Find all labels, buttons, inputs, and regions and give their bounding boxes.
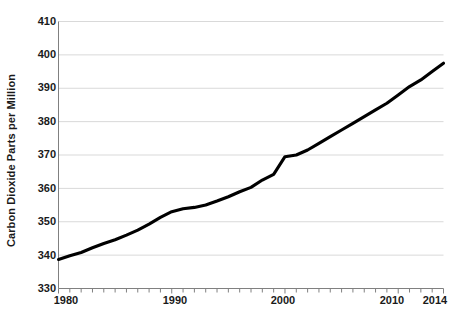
plot-area <box>0 0 463 321</box>
grid-lines <box>59 22 444 256</box>
co2-data-line <box>59 63 444 259</box>
co2-line-chart: Carbon Dioxide Parts per Million 410 400… <box>0 0 463 321</box>
x-axis-minor-ticks <box>59 289 444 294</box>
